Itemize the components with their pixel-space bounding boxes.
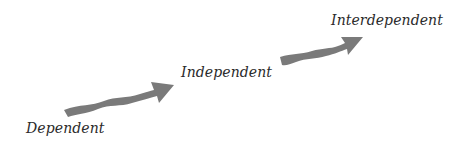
stage-label-interdependent: Interdependent	[331, 12, 443, 28]
progression-diagram: Dependent Independent Interdependent	[0, 0, 452, 143]
stage-label-dependent: Dependent	[26, 120, 105, 136]
arrow-dependent-to-independent	[64, 82, 174, 117]
stage-label-independent: Independent	[181, 64, 272, 80]
arrow-independent-to-interdependent	[280, 37, 363, 65]
